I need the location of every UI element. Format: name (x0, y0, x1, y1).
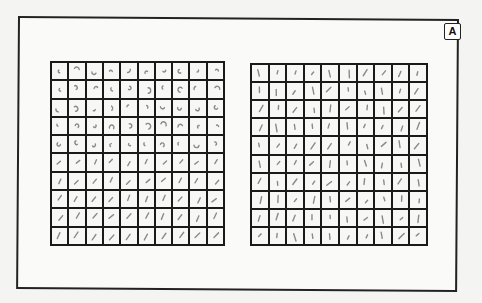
grid-cell (121, 100, 136, 116)
glyph-sample-icon (156, 191, 171, 207)
grid-cell (52, 81, 67, 97)
grid-cell (69, 136, 84, 152)
grid-cell (287, 192, 303, 208)
glyph-sample-icon (375, 101, 391, 117)
glyph-sample-icon (358, 228, 374, 244)
glyph-sample-icon (208, 100, 223, 116)
glyph-sample-icon (393, 119, 409, 135)
grid-cell (375, 101, 391, 117)
glyph-sample-icon (322, 174, 338, 190)
glyph-sample-icon (190, 154, 205, 170)
glyph-sample-icon (358, 119, 374, 135)
glyph-sample-icon (156, 100, 171, 116)
grid-cell (208, 100, 223, 116)
glyph-sample-icon (156, 136, 171, 152)
grid-cell (358, 192, 374, 208)
glyph-sample-icon (358, 65, 374, 81)
glyph-sample-icon (139, 173, 154, 189)
glyph-sample-icon (156, 63, 171, 79)
grid-cell (121, 118, 136, 134)
glyph-sample-icon (322, 156, 338, 172)
grid-cell (340, 210, 356, 226)
glyph-sample-icon (121, 81, 136, 97)
grid-cell (393, 228, 409, 244)
glyph-sample-icon (410, 137, 426, 153)
glyph-sample-icon (375, 210, 391, 226)
grid-cell (270, 101, 286, 117)
glyph-sample-icon (121, 100, 136, 116)
glyph-sample-icon (190, 209, 205, 225)
glyph-sample-icon (87, 81, 102, 97)
grid-cell (252, 210, 268, 226)
grid-cell (305, 174, 321, 190)
grid-cell (156, 191, 171, 207)
grid-cell (139, 191, 154, 207)
grid-cell (322, 119, 338, 135)
glyph-sample-icon (305, 210, 321, 226)
glyph-sample-icon (69, 100, 84, 116)
grid-cell (270, 119, 286, 135)
glyph-sample-icon (252, 119, 268, 135)
glyph-sample-icon (252, 228, 268, 244)
grid-cell (69, 209, 84, 225)
grid-cell (52, 209, 67, 225)
grid-cell (190, 173, 205, 189)
grid-cell (104, 136, 119, 152)
grid-cell (52, 100, 67, 116)
grid-cell (208, 136, 223, 152)
grid-cell (287, 228, 303, 244)
grid-cell (139, 136, 154, 152)
grid-cell (190, 100, 205, 116)
glyph-sample-icon (104, 100, 119, 116)
grid-cell (173, 136, 188, 152)
glyph-sample-icon (104, 63, 119, 79)
grid-cell (87, 173, 102, 189)
glyph-sample-icon (139, 209, 154, 225)
grid-cell (375, 174, 391, 190)
glyph-sample-icon (121, 136, 136, 152)
grid-cell (87, 154, 102, 170)
glyph-sample-icon (121, 173, 136, 189)
grid-cell (340, 228, 356, 244)
glyph-sample-icon (52, 228, 67, 244)
glyph-sample-icon (121, 118, 136, 134)
grid-cell (52, 136, 67, 152)
grid-cell (52, 154, 67, 170)
grid-cell (393, 119, 409, 135)
glyph-sample-icon (270, 101, 286, 117)
glyph-sample-icon (393, 174, 409, 190)
glyph-sample-icon (393, 65, 409, 81)
grid-cell (410, 101, 426, 117)
grid-cell (87, 209, 102, 225)
grid-cell (322, 192, 338, 208)
grid-cell (410, 192, 426, 208)
glyph-sample-icon (190, 173, 205, 189)
grid-cell (358, 156, 374, 172)
grid-cell (322, 65, 338, 81)
glyph-sample-icon (121, 154, 136, 170)
glyph-sample-icon (393, 101, 409, 117)
glyph-sample-icon (287, 228, 303, 244)
grid-cell (173, 228, 188, 244)
glyph-sample-icon (173, 154, 188, 170)
grid-cell (139, 173, 154, 189)
glyph-sample-icon (252, 210, 268, 226)
right-grid (250, 63, 428, 246)
glyph-sample-icon (208, 63, 223, 79)
grid-cell (69, 100, 84, 116)
glyph-sample-icon (69, 228, 84, 244)
grid-cell (190, 191, 205, 207)
grid-cell (208, 63, 223, 79)
grid-cell (358, 137, 374, 153)
grid-cell (173, 100, 188, 116)
glyph-sample-icon (340, 192, 356, 208)
glyph-sample-icon (305, 156, 321, 172)
grid-cell (340, 156, 356, 172)
glyph-sample-icon (139, 136, 154, 152)
grid-cell (52, 173, 67, 189)
grid-cell (208, 81, 223, 97)
grid-cell (156, 63, 171, 79)
glyph-sample-icon (52, 63, 67, 79)
grid-cell (156, 136, 171, 152)
grid-cell (375, 65, 391, 81)
